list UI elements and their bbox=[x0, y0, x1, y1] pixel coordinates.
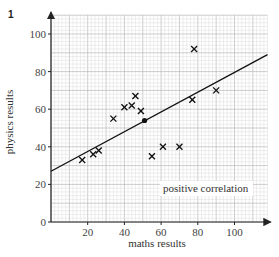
scatter-chart: 20406080100020406080100 positive correla… bbox=[0, 0, 279, 257]
mean-point bbox=[142, 118, 147, 123]
y-tick-label: 20 bbox=[35, 178, 47, 190]
x-axis-label: maths results bbox=[128, 237, 186, 249]
y-tick-label: 0 bbox=[41, 216, 47, 228]
y-tick-label: 100 bbox=[30, 28, 47, 40]
x-tick-label: 80 bbox=[192, 226, 204, 238]
tick-labels: 20406080100020406080100 bbox=[30, 28, 244, 238]
y-tick-label: 40 bbox=[35, 141, 47, 153]
x-tick-label: 100 bbox=[226, 226, 243, 238]
y-tick-label: 80 bbox=[35, 66, 47, 78]
x-tick-label: 20 bbox=[82, 226, 94, 238]
y-tick-label: 60 bbox=[35, 103, 47, 115]
y-axis-label: physics results bbox=[3, 90, 15, 154]
annotation-positive-correlation: positive correlation bbox=[163, 182, 249, 194]
